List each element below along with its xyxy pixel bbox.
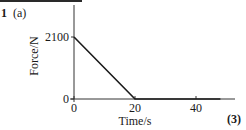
y-axis-label: Force/N [27,36,41,76]
x-tick-label: 0 [71,101,77,115]
force-time-chart: 02040 02100 Time/s Force/N [0,0,246,130]
y-tick-label: 0 [63,92,69,106]
x-tick-label: 40 [190,101,202,115]
y-tick-label: 2100 [45,30,69,44]
force-series-line [74,37,220,99]
x-tick-label: 20 [129,101,141,115]
x-axis-label: Time/s [119,114,152,128]
